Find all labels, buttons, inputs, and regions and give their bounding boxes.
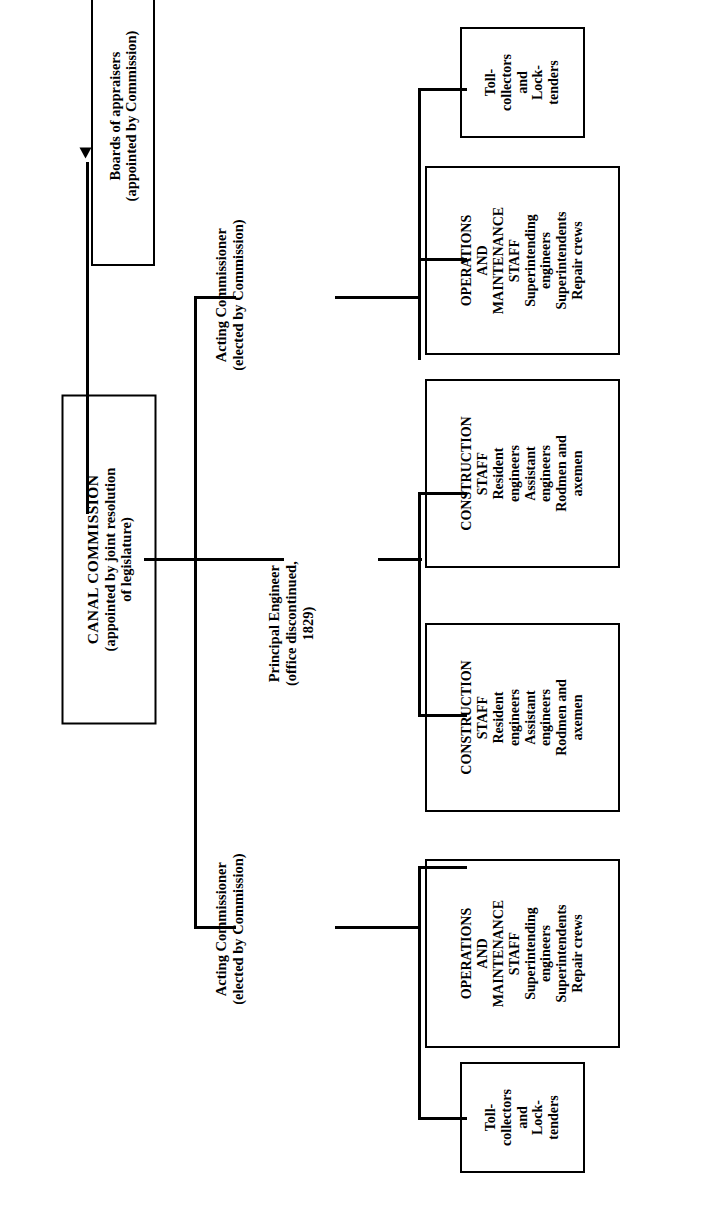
edge-acting-bottom-to-ops [418, 866, 467, 869]
node-construction-staff-top: CONSTRUCTION STAFF Resident engineers As… [425, 379, 620, 568]
acting-bottom-line-1: Acting Commissioner [213, 824, 230, 1034]
toll-top-line-2: collectors [499, 54, 515, 111]
cons-top-line-3: Resident [491, 416, 507, 530]
ops-top-line-8: Repair crews [570, 207, 586, 314]
ops-top-line-2: AND [475, 207, 491, 314]
edge-spine-to-acting-top [194, 296, 236, 299]
ops-top-line-4: STAFF [507, 207, 523, 314]
edge-acting-top-to-ops [418, 258, 467, 261]
cons-bottom-line-5: Assistant [523, 660, 539, 774]
ops-bottom-line-5: Superintending [523, 900, 539, 1007]
cons-bottom-line-7: Rodmen and [554, 660, 570, 774]
edge-principal-stem [378, 558, 422, 561]
ops-top-line-5: Superintending [523, 207, 539, 314]
arrowhead-to-boards [80, 148, 92, 159]
edge-principal-to-construction-bottom [418, 714, 467, 717]
ops-bottom-line-7: Superintendents [554, 900, 570, 1007]
node-toll-collectors-top: Toll- collectors and Lock- tenders [460, 27, 585, 138]
toll-bottom-line-2: collectors [499, 1089, 515, 1146]
cons-top-line-6: engineers [538, 416, 554, 530]
ops-top-line-3: MAINTENANCE [491, 207, 507, 314]
spine-principal [418, 492, 421, 717]
cons-top-line-7: Rodmen and [554, 416, 570, 530]
boards-line-1: Boards of appraisers [107, 31, 123, 202]
edge-spine-to-acting-bottom [194, 926, 236, 929]
cons-bottom-line-3: Resident [491, 660, 507, 774]
cons-top-line-8: axemen [570, 416, 586, 530]
cons-bottom-line-6: engineers [538, 660, 554, 774]
principal-line-3: 1829) [301, 519, 318, 729]
edge-acting-top-stem [335, 296, 421, 299]
edge-commission-to-boards [86, 162, 89, 514]
toll-bottom-line-3: and [515, 1089, 531, 1146]
edge-acting-bottom-to-toll [418, 1117, 467, 1120]
toll-bottom-line-4: Lock- [530, 1089, 546, 1146]
ops-bottom-line-3: MAINTENANCE [491, 900, 507, 1007]
principal-line-2: (office discontinued, [283, 519, 300, 729]
label-acting-commissioner-bottom: Acting Commissioner (elected by Commissi… [213, 824, 247, 1034]
commission-line-2: (appointed by joint resolution [101, 468, 117, 652]
toll-top-line-4: Lock- [530, 54, 546, 111]
spine-level2 [194, 296, 197, 929]
node-construction-staff-bottom: CONSTRUCTION STAFF Resident engineers As… [425, 623, 620, 812]
edge-acting-top-to-toll [418, 88, 467, 91]
cons-bottom-line-1: CONSTRUCTION [459, 660, 475, 774]
toll-top-line-3: and [515, 54, 531, 111]
node-operations-maintenance-bottom: OPERATIONS AND MAINTENANCE STAFF Superin… [425, 859, 620, 1048]
cons-top-line-4: engineers [507, 416, 523, 530]
toll-bottom-line-1: Toll- [483, 1089, 499, 1146]
spine-acting-bottom [418, 866, 421, 1119]
ops-bottom-line-1: OPERATIONS [459, 900, 475, 1007]
cons-bottom-line-8: axemen [570, 660, 586, 774]
cons-top-line-2: STAFF [475, 416, 491, 530]
label-principal-engineer: Principal Engineer (office discontinued,… [266, 519, 317, 729]
node-canal-commission: CANAL COMMISSION (appointed by joint res… [62, 395, 157, 725]
cons-bottom-line-4: engineers [507, 660, 523, 774]
edge-acting-bottom-stem [335, 926, 421, 929]
toll-top-line-5: tenders [546, 54, 562, 111]
cons-top-line-5: Assistant [523, 416, 539, 530]
ops-bottom-line-4: STAFF [507, 900, 523, 1007]
acting-bottom-line-2: (elected by Commission) [230, 824, 247, 1034]
spine-acting-top [418, 88, 421, 360]
edge-principal-to-construction-top [418, 492, 467, 495]
principal-line-1: Principal Engineer [266, 519, 283, 729]
ops-top-line-7: Superintendents [554, 207, 570, 314]
edge-spine-to-principal [194, 558, 284, 561]
boards-line-2: (appointed by Commission) [123, 31, 139, 202]
ops-top-line-6: engineers [538, 207, 554, 314]
ops-bottom-line-2: AND [475, 900, 491, 1007]
cons-bottom-line-2: STAFF [475, 660, 491, 774]
edge-commission-stub [144, 558, 197, 561]
ops-bottom-line-6: engineers [538, 900, 554, 1007]
toll-top-line-1: Toll- [483, 54, 499, 111]
ops-bottom-line-8: Repair crews [570, 900, 586, 1007]
org-chart-canvas: Boards of appraisers (appointed by Commi… [0, 0, 714, 1210]
node-toll-collectors-bottom: Toll- collectors and Lock- tenders [460, 1062, 585, 1173]
node-boards-of-appraisers: Boards of appraisers (appointed by Commi… [91, 0, 155, 266]
toll-bottom-line-5: tenders [546, 1089, 562, 1146]
cons-top-line-1: CONSTRUCTION [459, 416, 475, 530]
commission-line-3: of legislature) [118, 468, 134, 652]
